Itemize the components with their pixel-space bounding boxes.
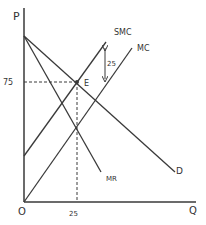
gap-label: 25	[107, 60, 116, 68]
d-label: D	[176, 166, 183, 176]
demand-curve	[24, 36, 175, 172]
mr-curve	[24, 36, 101, 172]
price-label: 75	[3, 78, 13, 87]
equilibrium-label: E	[84, 79, 89, 88]
quantity-label: 25	[69, 210, 78, 218]
y-axis-label: P	[13, 10, 20, 23]
equilibrium-point	[75, 80, 79, 84]
economics-diagram: P Q O SMC MC MR D E 75 25 25	[0, 0, 206, 225]
mr-label: MR	[106, 175, 117, 183]
smc-label: SMC	[114, 28, 132, 37]
x-axis-label: Q	[189, 205, 197, 216]
origin-label: O	[18, 206, 26, 217]
mc-label: MC	[137, 44, 150, 53]
